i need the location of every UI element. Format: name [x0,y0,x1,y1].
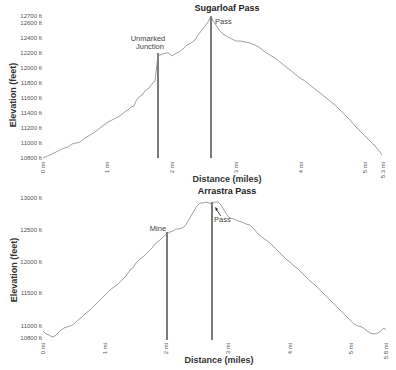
x-tick: 1 mi [104,162,110,173]
chart-title: Arrastra Pass [198,186,257,196]
y-tick: 11500 ft [21,290,43,296]
annotation-pass: Pass [214,215,231,224]
y-tick: 11600 ft [21,95,43,101]
y-tick: 13000 ft [20,195,42,201]
y-tick: 12400 ft [20,35,42,41]
y-tick: 12700 ft [20,13,42,19]
y-tick: 11000 ft [21,140,43,146]
annotation-mine: Mine [150,224,166,233]
chart-arrastra-pass: Arrastra Pass Elevation (feet) Distance … [9,186,389,365]
y-tick: 10800 ft [20,155,42,161]
chart-sugarloaf-pass: Sugarloaf Pass Elevation (feet) Distance… [8,3,386,184]
arrowhead-icon [215,207,218,211]
y-axis-label: Elevation (feet) [8,63,18,128]
x-tick: 2 mi [169,162,175,173]
y-tick: 12600 ft [20,20,42,26]
x-tick: 5.8 mi [383,343,389,359]
elevation-profiles: Sugarloaf Pass Elevation (feet) Distance… [0,0,396,370]
x-axis-label: Distance (miles) [192,174,261,184]
x-tick: 0 mi [40,343,46,354]
x-tick: 5.3 mi [380,162,386,178]
y-axis-ticks: 12700 ft 12600 ft 12400 ft 12200 ft 1200… [20,13,42,161]
annotation-pass: Pass [215,17,232,26]
x-tick: 5 mi [348,343,354,354]
y-tick: 12000 ft [20,259,42,265]
y-tick: 11400 ft [21,110,43,116]
y-tick: 10800 ft [20,335,42,341]
y-axis-ticks: 13000 ft 12500 ft 12000 ft 11500 ft 1100… [20,195,42,341]
y-tick: 12000 ft [20,65,42,71]
y-tick: 11000 ft [21,323,43,329]
x-tick: 4 mi [287,343,293,354]
y-tick: 12200 ft [20,50,42,56]
x-tick: 4 mi [298,162,304,173]
x-tick: 1 mi [102,343,108,354]
x-axis-label: Distance (miles) [184,355,253,365]
y-tick: 11800 ft [21,80,43,86]
annotation-unmarked-junction-line2: Junction [136,42,164,51]
y-tick: 12500 ft [20,227,42,233]
y-tick: 11200 ft [21,125,43,131]
y-axis-label: Elevation (feet) [9,238,19,303]
x-tick: 3 mi [225,343,231,354]
x-tick: 5 mi [362,162,368,173]
x-tick: 2 mi [163,343,169,354]
x-tick: 0 mi [40,162,46,173]
chart-title: Sugarloaf Pass [194,3,259,13]
elevation-line [43,16,382,158]
x-tick: 3 mi [233,162,239,173]
